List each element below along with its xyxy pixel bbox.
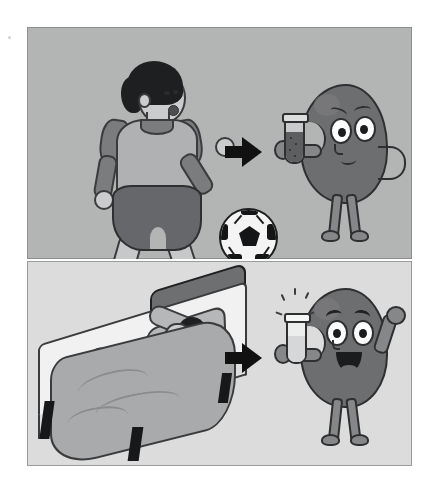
kidney-nose: [334, 144, 343, 155]
kidney-pupil-left: [338, 128, 346, 137]
happy-kidney-character: [278, 288, 412, 448]
rest-scene: [27, 261, 412, 466]
kidney-nose: [332, 340, 340, 350]
kidney-pupil-left: [333, 329, 341, 338]
cloudy-urine-sample-tube: [284, 114, 305, 164]
player-eye-2: [173, 90, 178, 94]
kidney-pupil-right: [359, 329, 367, 338]
kidney-tongue: [341, 365, 357, 372]
ball-seam: [256, 215, 265, 225]
illustration-canvas: [0, 0, 439, 493]
ball-seam: [234, 215, 243, 225]
ball-panel: [219, 224, 228, 240]
player-eye: [164, 91, 170, 95]
sparkle-icon: [275, 311, 282, 315]
clear-urine-sample-tube: [286, 314, 307, 364]
sparkle-icon: [294, 288, 296, 295]
kidney-pupil-right: [360, 125, 368, 134]
kidney-arm-on-hip: [378, 146, 406, 180]
ball-panel: [241, 208, 258, 215]
right-arrow-icon: [225, 341, 265, 375]
kidney-eye-left: [330, 118, 352, 144]
ball-panel: [267, 224, 278, 240]
sediment-particle: [294, 155, 296, 157]
soccer-ball: [219, 208, 278, 259]
kidney-eye-right: [354, 116, 376, 142]
sediment-particle: [295, 143, 297, 145]
ball-panel: [239, 226, 260, 246]
kidney-foot-right: [350, 230, 369, 242]
sad-kidney-character: [278, 84, 412, 244]
kidney-eye-right: [352, 320, 374, 346]
exercise-scene: [27, 27, 412, 259]
player-shorts-split: [150, 227, 166, 249]
tube-clear-contents: [288, 336, 305, 362]
after-exercise-panel: [27, 27, 412, 259]
arrow-head: [242, 343, 262, 373]
sparkle-icon: [305, 292, 310, 299]
right-arrow-icon: [225, 135, 265, 169]
player-hand-left: [94, 190, 114, 210]
player-collar: [140, 119, 174, 135]
kidney-foot-right: [350, 434, 369, 446]
kidney-foot-left: [321, 230, 340, 242]
arrow-head: [242, 137, 262, 167]
sparkle-icon: [281, 294, 286, 301]
paper-speck: [8, 36, 11, 39]
kidney-fist: [386, 306, 406, 325]
after-rest-panel: [27, 261, 412, 466]
tube-cloudy-contents: [286, 132, 303, 162]
tube-lip: [282, 113, 309, 123]
sediment-particle: [290, 137, 292, 139]
player-ear: [138, 93, 151, 108]
sediment-particle: [289, 149, 291, 151]
player-hair: [127, 61, 183, 105]
bed: [30, 275, 245, 460]
kidney-foot-left: [321, 434, 340, 446]
